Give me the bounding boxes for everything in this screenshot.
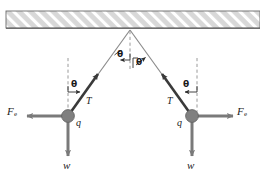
- ceiling-hatch-band: [6, 11, 260, 28]
- theta-right-label: θ: [183, 80, 189, 89]
- weight-left-label: w: [63, 160, 70, 171]
- theta-apex-left-label: θ: [117, 50, 123, 59]
- electric-force-left-symbol: F: [7, 105, 14, 117]
- theta-left-label: θ: [71, 80, 77, 89]
- theta-apex-right-label: θ: [136, 58, 142, 67]
- electric-force-right-label: Fe: [237, 106, 247, 118]
- charged-sphere-left: [62, 110, 75, 123]
- diagram-canvas: [0, 0, 260, 176]
- ceiling-group: [6, 11, 260, 28]
- electric-force-right-symbol: F: [237, 105, 244, 117]
- charged-sphere-right: [186, 110, 199, 123]
- charge-right-label: q: [177, 118, 182, 128]
- tension-left-label: T: [86, 96, 92, 106]
- physics-diagram: θ θ θ θ T T q q Fe Fe w w: [0, 0, 260, 176]
- electric-force-right-subscript: e: [244, 110, 247, 118]
- weight-right-label: w: [187, 160, 194, 171]
- charge-left-label: q: [76, 118, 81, 128]
- electric-force-left-subscript: e: [14, 110, 17, 118]
- tension-right-label: T: [167, 96, 173, 106]
- electric-force-left-label: Fe: [7, 106, 17, 118]
